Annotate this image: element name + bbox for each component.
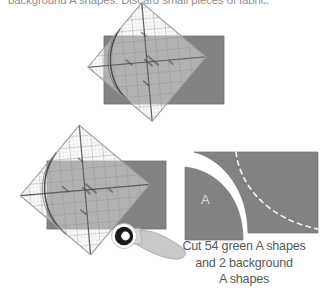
caption-line-3: A shapes bbox=[168, 271, 320, 288]
caption-line-1: Cut 54 green A shapes bbox=[168, 238, 320, 255]
step-one-ruler-on-fabric bbox=[88, 3, 224, 121]
figure-root: background A shapes. Discard small piece… bbox=[0, 0, 323, 295]
shape-letter-a: A bbox=[201, 192, 210, 207]
step-two-cutting-with-rotary-cutter bbox=[20, 125, 185, 259]
caption: Cut 54 green A shapes and 2 background A… bbox=[168, 238, 320, 288]
caption-line-2: and 2 background bbox=[168, 255, 320, 272]
